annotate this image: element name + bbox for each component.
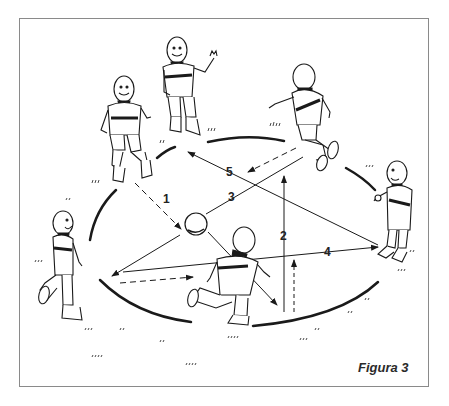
player-bottom-center-figure [186,227,270,325]
player-top-left-figure [101,76,152,182]
arrow-1 [135,183,181,229]
grass-tufts [35,122,414,365]
player-top-center-figure [163,37,217,135]
label-1: 1 [163,192,170,206]
label-3: 3 [228,190,235,204]
arrow-3 [206,157,303,214]
player-top-right-figure [269,64,340,172]
player-right-figure [374,161,412,262]
arrow-dash-top-right [248,148,296,172]
label-2: 2 [280,229,287,243]
figure-caption: Figura 3 [358,360,409,375]
arrow-left-run [120,277,193,283]
circle-boundary [90,137,378,326]
label-5: 5 [226,165,233,179]
soccer-drill-diagram: 1 2 3 4 5 [0,0,449,406]
ball-icon [185,213,207,235]
label-4: 4 [324,245,331,259]
player-left-figure [37,211,82,320]
